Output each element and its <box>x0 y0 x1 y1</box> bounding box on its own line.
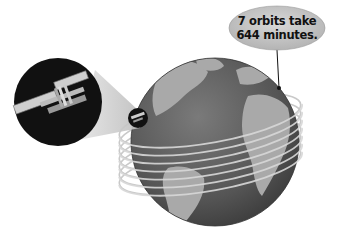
callout-line-1: 7 orbits take <box>231 14 323 28</box>
space-station-on-orbit <box>128 108 148 128</box>
space-station-magnified-view <box>10 58 102 146</box>
diagram-canvas: 7 orbits take 644 minutes. <box>0 0 339 242</box>
callout-line-2: 644 minutes. <box>231 28 323 42</box>
callout-leader-line <box>277 50 279 88</box>
earth-globe <box>131 58 299 230</box>
callout-text: 7 orbits take 644 minutes. <box>231 14 323 42</box>
